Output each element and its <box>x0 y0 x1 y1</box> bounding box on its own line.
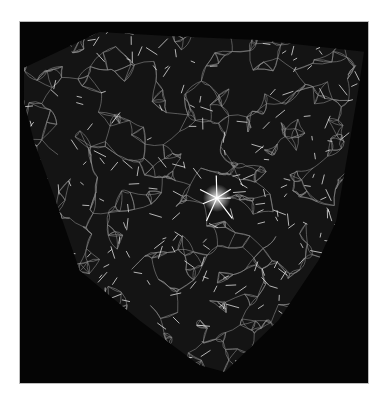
bright-cluster-node <box>203 184 231 212</box>
cosmic-web-visualization <box>20 22 368 383</box>
cube-volume <box>24 32 364 372</box>
simulation-image-frame <box>19 21 369 384</box>
